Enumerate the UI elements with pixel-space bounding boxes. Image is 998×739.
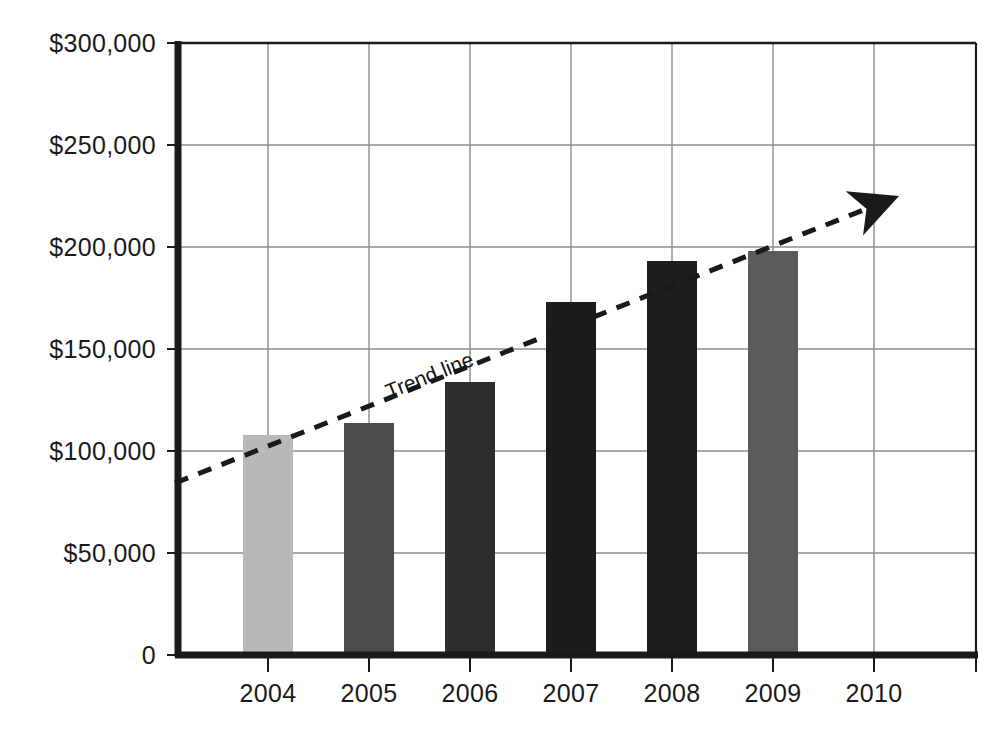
bar-chart: Trend line $300,000 $250,000 $200,000 $1… bbox=[0, 0, 998, 739]
x-axis-label-2006: 2006 bbox=[442, 679, 499, 707]
y-axis-label-150000: $150,000 bbox=[49, 335, 156, 363]
x-axis-label-2009: 2009 bbox=[745, 679, 802, 707]
bar-2004 bbox=[243, 435, 293, 655]
chart-container: Trend line $300,000 $250,000 $200,000 $1… bbox=[0, 0, 998, 739]
y-axis-label-200000: $200,000 bbox=[49, 233, 156, 261]
y-axis-label-0: 0 bbox=[142, 641, 156, 669]
y-axis-label-250000: $250,000 bbox=[49, 131, 156, 159]
x-axis-label-2010: 2010 bbox=[846, 679, 903, 707]
y-axis-label-50000: $50,000 bbox=[64, 539, 156, 567]
bar-2005 bbox=[344, 423, 394, 655]
y-axis-label-100000: $100,000 bbox=[49, 437, 156, 465]
x-axis-label-2005: 2005 bbox=[341, 679, 398, 707]
y-axis-labels: $300,000 $250,000 $200,000 $150,000 $100… bbox=[49, 29, 156, 669]
y-axis-label-300000: $300,000 bbox=[49, 29, 156, 57]
x-axis-label-2008: 2008 bbox=[644, 679, 701, 707]
x-axis-label-2007: 2007 bbox=[543, 679, 600, 707]
x-axis-labels: 2004 2005 2006 2007 2008 2009 2010 bbox=[240, 679, 903, 707]
bar-2009 bbox=[748, 251, 798, 655]
bar-2007 bbox=[546, 302, 596, 655]
x-axis-label-2004: 2004 bbox=[240, 679, 297, 707]
bar-2006 bbox=[445, 382, 495, 655]
bar-2008 bbox=[647, 261, 697, 655]
